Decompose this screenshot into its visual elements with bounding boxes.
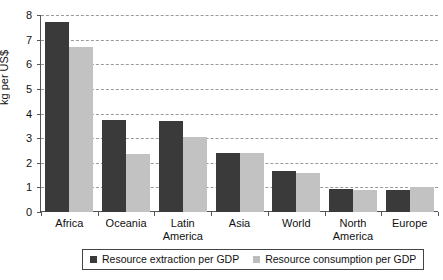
bar-extraction — [102, 120, 126, 212]
bar-extraction — [272, 171, 296, 212]
y-axis-tick-label: 7 — [26, 34, 32, 45]
x-axis-tick — [325, 212, 326, 216]
bar-group — [381, 15, 438, 212]
y-axis-tick-label: 4 — [26, 108, 32, 119]
x-axis-category-label: Asia — [211, 214, 268, 254]
x-axis-tick — [98, 212, 99, 216]
bar-extraction — [386, 190, 410, 212]
y-axis-tick-label: 0 — [26, 207, 32, 218]
bar-group — [268, 15, 325, 212]
x-axis-category-label: World — [268, 214, 325, 254]
bar-group — [98, 15, 155, 212]
bar-chart: kg per US$ 012345678 AfricaOceaniaLatinA… — [0, 0, 443, 280]
x-axis-tick — [381, 212, 382, 216]
y-axis-tick-label: 6 — [26, 59, 32, 70]
x-axis-tick — [211, 212, 212, 216]
bars-layer — [41, 15, 438, 212]
legend-swatch-extraction-icon — [90, 256, 97, 263]
x-axis-category-labels: AfricaOceaniaLatinAmericaAsiaWorldNorthA… — [41, 214, 438, 254]
x-axis-category-label: Europe — [381, 214, 438, 254]
legend-item-consumption: Resource consumption per GDP — [253, 253, 416, 265]
x-axis-category-label: Oceania — [98, 214, 155, 254]
x-axis-tick — [154, 212, 155, 216]
bar-consumption — [410, 187, 434, 212]
legend-swatch-consumption-icon — [253, 256, 260, 263]
bar-group — [211, 15, 268, 212]
y-axis-tick-label: 3 — [26, 133, 32, 144]
bar-consumption — [126, 154, 150, 212]
bar-consumption — [69, 47, 93, 212]
y-axis-tick-labels: 012345678 — [0, 15, 34, 212]
x-axis-category-label: Africa — [41, 214, 98, 254]
legend-label-extraction: Resource extraction per GDP — [102, 253, 239, 265]
chart-legend: Resource extraction per GDP Resource con… — [82, 249, 424, 270]
bar-consumption — [240, 153, 264, 212]
bar-consumption — [353, 190, 377, 212]
y-axis-tick-label: 5 — [26, 83, 32, 94]
bar-extraction — [216, 153, 240, 212]
bar-extraction — [159, 121, 183, 212]
bar-consumption — [296, 173, 320, 212]
x-axis-tick — [268, 212, 269, 216]
y-axis-tick-label: 1 — [26, 182, 32, 193]
y-axis-tick-label: 8 — [26, 10, 32, 21]
bar-group — [154, 15, 211, 212]
x-axis-category-label: NorthAmerica — [325, 214, 382, 254]
bar-group — [41, 15, 98, 212]
legend-label-consumption: Resource consumption per GDP — [265, 253, 416, 265]
bar-consumption — [183, 137, 207, 212]
bar-group — [325, 15, 382, 212]
bar-extraction — [45, 22, 69, 212]
bar-extraction — [329, 189, 353, 212]
y-axis-tick-label: 2 — [26, 157, 32, 168]
x-axis-category-label: LatinAmerica — [154, 214, 211, 254]
x-axis-tick — [41, 212, 42, 216]
legend-item-extraction: Resource extraction per GDP — [90, 253, 239, 265]
x-axis-tick — [438, 212, 439, 216]
